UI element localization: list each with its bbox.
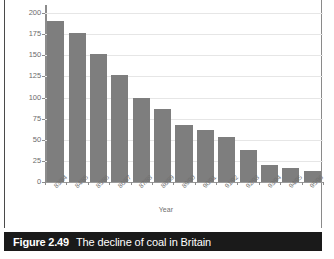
y-axis-tick-labels: 0255075100125150175200: [5, 13, 41, 182]
x-axis-title: Year: [5, 206, 327, 213]
y-axis-tick-label: 175: [7, 30, 41, 38]
y-axis-tick-label: 25: [7, 157, 41, 165]
chart-panel: 0255075100125150175200 83/8484/8585/8686…: [4, 0, 322, 228]
y-axis-tick-label: 125: [7, 72, 41, 80]
figure-caption-bar: Figure 2.49 The decline of coal in Brita…: [4, 232, 322, 251]
figure-number: Figure 2.49: [13, 236, 69, 248]
bar: [154, 109, 171, 183]
y-axis-tick-label: 100: [7, 94, 41, 102]
x-axis-tick-mark: [323, 182, 324, 185]
bar: [47, 21, 64, 182]
bar: [69, 33, 86, 182]
bar: [111, 75, 128, 182]
y-axis-tick-label: 50: [7, 136, 41, 144]
figure-caption-text: The decline of coal in Britain: [76, 236, 211, 248]
bar-series: [45, 13, 323, 182]
y-axis-tick-label: 75: [7, 115, 41, 123]
y-axis-tick-label: 200: [7, 9, 41, 17]
y-axis-tick-label: 150: [7, 51, 41, 59]
figure-container: 0255075100125150175200 83/8484/8585/8686…: [0, 0, 334, 259]
bar: [90, 54, 107, 182]
plot-area: [45, 13, 323, 182]
y-axis-tick-label: 0: [7, 178, 41, 186]
bar: [133, 98, 150, 183]
